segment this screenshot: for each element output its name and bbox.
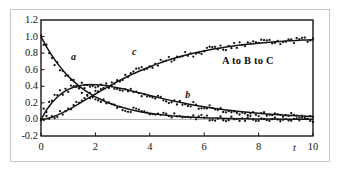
chart-root: 1.2 1.0 0.8 0.6 0.4 0.2 0.0 -0.2 0 2 4 6… [0, 0, 342, 171]
plot-area [0, 0, 342, 171]
